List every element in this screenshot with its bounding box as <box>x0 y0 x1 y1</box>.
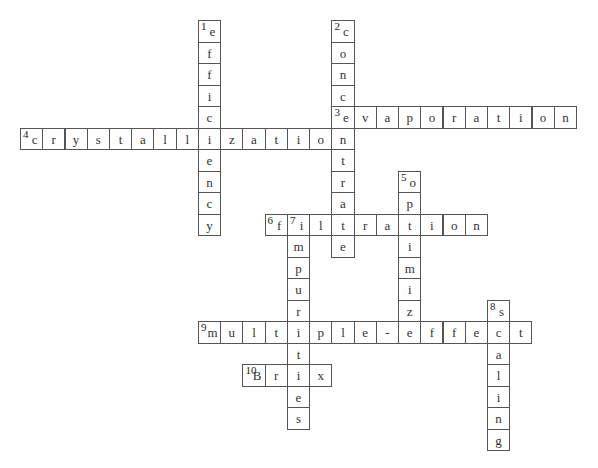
crossword-cell[interactable]: f <box>443 321 466 344</box>
crossword-cell[interactable]: i <box>398 235 421 258</box>
crossword-cell[interactable]: 8s <box>487 300 510 323</box>
crossword-cell[interactable]: a <box>376 214 399 237</box>
crossword-cell[interactable]: t <box>265 128 288 151</box>
crossword-cell[interactable]: p <box>287 257 310 280</box>
crossword-cell[interactable]: c <box>331 85 354 108</box>
crossword-cell[interactable]: z <box>220 128 243 151</box>
crossword-cell[interactable]: 6f <box>265 214 288 237</box>
crossword-cell[interactable]: c <box>487 321 510 344</box>
crossword-cell[interactable]: r <box>331 171 354 194</box>
crossword-cell[interactable]: t <box>265 321 288 344</box>
crossword-cell[interactable]: x <box>309 364 332 387</box>
crossword-cell[interactable]: c <box>198 192 221 215</box>
crossword-cell[interactable]: a <box>242 128 265 151</box>
crossword-cell[interactable]: 5o <box>398 171 421 194</box>
crossword-cell[interactable]: r <box>443 106 466 129</box>
crossword-cell[interactable]: i <box>287 321 310 344</box>
crossword-cell[interactable]: o <box>443 214 466 237</box>
cell-letter: r <box>52 132 56 148</box>
crossword-cell[interactable]: p <box>309 321 332 344</box>
crossword-cell[interactable]: f <box>198 63 221 86</box>
crossword-cell[interactable]: e <box>398 321 421 344</box>
crossword-cell[interactable]: a <box>487 343 510 366</box>
crossword-cell[interactable]: e <box>331 235 354 258</box>
crossword-cell[interactable]: t <box>509 321 532 344</box>
crossword-cell[interactable]: i <box>487 386 510 409</box>
crossword-cell[interactable]: n <box>198 171 221 194</box>
crossword-cell[interactable]: t <box>287 343 310 366</box>
crossword-cell[interactable]: m <box>398 257 421 280</box>
crossword-cell[interactable]: l <box>309 214 332 237</box>
cell-letter: i <box>297 132 301 148</box>
crossword-cell[interactable]: i <box>509 106 532 129</box>
crossword-cell[interactable]: u <box>220 321 243 344</box>
crossword-cell[interactable]: 1e <box>198 20 221 43</box>
crossword-cell[interactable]: a <box>376 106 399 129</box>
crossword-cell[interactable]: o <box>532 106 555 129</box>
crossword-cell[interactable]: c <box>198 106 221 129</box>
crossword-cell[interactable]: l <box>153 128 176 151</box>
crossword-cell[interactable]: 9m <box>198 321 221 344</box>
crossword-cell[interactable]: n <box>487 407 510 430</box>
crossword-cell[interactable]: i <box>287 364 310 387</box>
crossword-cell[interactable]: s <box>87 128 110 151</box>
crossword-cell[interactable]: r <box>42 128 65 151</box>
crossword-cell[interactable]: p <box>398 106 421 129</box>
crossword-cell[interactable]: s <box>287 407 310 430</box>
crossword-cell[interactable]: 10B <box>242 364 265 387</box>
crossword-cell[interactable]: u <box>287 278 310 301</box>
crossword-cell[interactable]: r <box>287 300 310 323</box>
cell-letter: l <box>163 132 167 148</box>
crossword-cell[interactable]: z <box>398 300 421 323</box>
cell-letter: r <box>274 368 278 384</box>
crossword-cell[interactable]: a <box>131 128 154 151</box>
crossword-cell[interactable]: n <box>331 63 354 86</box>
cell-letter: o <box>451 218 458 234</box>
crossword-cell[interactable]: e <box>465 321 488 344</box>
crossword-cell[interactable]: r <box>265 364 288 387</box>
crossword-cell[interactable]: r <box>354 214 377 237</box>
crossword-cell[interactable]: l <box>242 321 265 344</box>
crossword-cell[interactable]: l <box>487 364 510 387</box>
crossword-cell[interactable]: t <box>487 106 510 129</box>
crossword-cell[interactable]: o <box>420 106 443 129</box>
crossword-cell[interactable]: n <box>331 128 354 151</box>
crossword-cell[interactable]: p <box>398 192 421 215</box>
crossword-cell[interactable]: 2c <box>331 20 354 43</box>
crossword-cell[interactable]: a <box>331 192 354 215</box>
crossword-cell[interactable]: i <box>198 85 221 108</box>
crossword-cell[interactable]: v <box>354 106 377 129</box>
crossword-cell[interactable]: y <box>65 128 88 151</box>
crossword-cell[interactable]: g <box>487 429 510 452</box>
crossword-cell[interactable]: f <box>420 321 443 344</box>
crossword-cell[interactable]: a <box>465 106 488 129</box>
crossword-cell[interactable]: o <box>331 42 354 65</box>
crossword-cell[interactable]: t <box>331 214 354 237</box>
crossword-cell[interactable]: i <box>420 214 443 237</box>
crossword-cell[interactable]: l <box>331 321 354 344</box>
crossword-cell[interactable]: 7i <box>287 214 310 237</box>
crossword-cell[interactable]: n <box>554 106 577 129</box>
cell-letter: n <box>340 67 347 83</box>
crossword-cell[interactable]: 3e <box>331 106 354 129</box>
crossword-cell[interactable]: t <box>331 149 354 172</box>
crossword-cell[interactable]: i <box>198 128 221 151</box>
crossword-cell[interactable]: y <box>198 214 221 237</box>
crossword-cell[interactable]: i <box>287 128 310 151</box>
crossword-cell[interactable]: 4c <box>20 128 43 151</box>
crossword-cell[interactable]: e <box>287 386 310 409</box>
crossword-cell[interactable]: o <box>309 128 332 151</box>
crossword-cell[interactable]: t <box>398 214 421 237</box>
crossword-cell[interactable]: n <box>465 214 488 237</box>
crossword-cell[interactable]: m <box>287 235 310 258</box>
crossword-cell[interactable]: - <box>376 321 399 344</box>
crossword-cell[interactable]: e <box>198 149 221 172</box>
crossword-cell[interactable]: f <box>198 42 221 65</box>
cell-letter: z <box>407 304 413 320</box>
crossword-cell[interactable]: e <box>354 321 377 344</box>
crossword-cell[interactable]: l <box>176 128 199 151</box>
cell-letter: i <box>208 132 212 148</box>
cell-letter: o <box>409 175 416 191</box>
crossword-cell[interactable]: i <box>398 278 421 301</box>
crossword-cell[interactable]: t <box>109 128 132 151</box>
